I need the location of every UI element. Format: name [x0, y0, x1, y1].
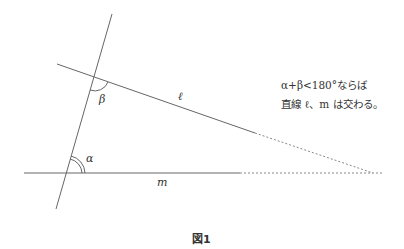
note-line-2: 直線 ℓ、m は交わる。: [281, 95, 383, 114]
note-line-1: α+β<180°ならば: [281, 76, 383, 95]
figure-caption: 図1: [192, 230, 211, 246]
alpha-label: α: [86, 152, 94, 165]
line-m-label: m: [157, 176, 167, 189]
beta-label: β: [98, 93, 105, 106]
line-l-solid: [57, 64, 255, 133]
alpha-angle-arc-outer: [71, 156, 85, 173]
line-l-label: ℓ: [178, 90, 183, 103]
beta-angle-arc: [90, 82, 108, 91]
condition-note: α+β<180°ならば 直線 ℓ、m は交わる。: [281, 76, 383, 114]
line-l-dotted: [255, 133, 373, 173]
transversal-line: [56, 14, 112, 209]
parallel-postulate-diagram: α β ℓ m: [0, 0, 404, 249]
